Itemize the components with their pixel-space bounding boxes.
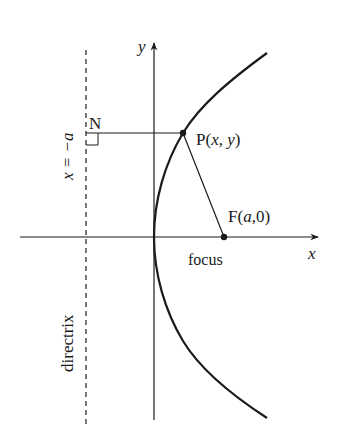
y-axis-label: y — [136, 37, 146, 56]
point-N-label: N — [89, 114, 101, 133]
x-axis-label: x — [307, 244, 316, 263]
point-P — [180, 130, 186, 136]
parabola-diagram: y x N P(x, y) F(a,0) focus x = −a direct… — [0, 0, 343, 444]
right-angle-marker — [86, 133, 98, 145]
point-F-label: F(a,0) — [228, 207, 270, 226]
focus-caption: focus — [188, 251, 223, 268]
directrix-name-label: directrix — [58, 314, 77, 372]
parabola-curve — [154, 53, 267, 418]
point-F — [221, 234, 227, 240]
directrix-equation-label: x = −a — [58, 133, 77, 182]
point-P-label: P(x, y) — [196, 130, 240, 149]
